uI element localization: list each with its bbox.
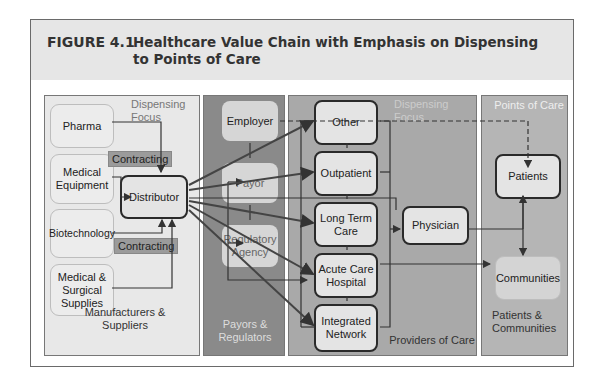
dispensing-focus-label-providers: Dispensing Focus — [394, 98, 464, 124]
node-patients: Patients — [495, 154, 561, 199]
node-physician: Physician — [402, 206, 469, 245]
payors-label: Payors & Regulators — [209, 318, 281, 344]
node-biotechnology: Biotechnology — [50, 209, 114, 258]
dispensing-focus-label: Dispensing Focus — [131, 98, 201, 124]
panel-payors: Employer Payor Regulatory Agency Payors … — [203, 95, 285, 356]
panel-manufacturers: Dispensing Focus Pharma Medical Equipmen… — [44, 95, 200, 356]
panel-providers: Dispensing Focus Other Outpatient Long T… — [288, 95, 477, 356]
panel-points-of-care: Points of Care Patients Communities Pati… — [481, 95, 568, 356]
contracting-tag-top: Contracting — [108, 151, 172, 167]
node-payor: Payor — [222, 163, 278, 203]
node-regulatory-agency: Regulatory Agency — [222, 225, 278, 267]
node-integrated-network: Integrated Network — [314, 304, 378, 352]
manufacturers-label: Manufacturers & Suppliers — [65, 306, 185, 332]
points-of-care-label: Points of Care — [490, 99, 568, 112]
node-medical-equipment: Medical Equipment — [50, 154, 114, 204]
figure-header: FIGURE 4.1 Healthcare Value Chain with E… — [31, 20, 573, 80]
node-employer: Employer — [222, 101, 278, 141]
figure-number: FIGURE 4.1 — [47, 34, 135, 50]
providers-label: Providers of Care — [387, 334, 477, 347]
patients-communities-label: Patients & Communities — [492, 309, 568, 335]
node-acute-care-hospital: Acute Care Hospital — [314, 253, 378, 298]
node-communities: Communities — [495, 256, 561, 300]
figure-title: Healthcare Value Chain with Emphasis on … — [133, 34, 553, 68]
node-other: Other — [314, 100, 378, 145]
node-distributor: Distributor — [120, 175, 188, 219]
node-long-term-care: Long Term Care — [314, 202, 378, 247]
figure-frame: FIGURE 4.1 Healthcare Value Chain with E… — [30, 19, 574, 367]
node-pharma: Pharma — [50, 104, 114, 148]
contracting-tag-bottom: Contracting — [114, 238, 178, 254]
node-outpatient: Outpatient — [314, 151, 378, 196]
